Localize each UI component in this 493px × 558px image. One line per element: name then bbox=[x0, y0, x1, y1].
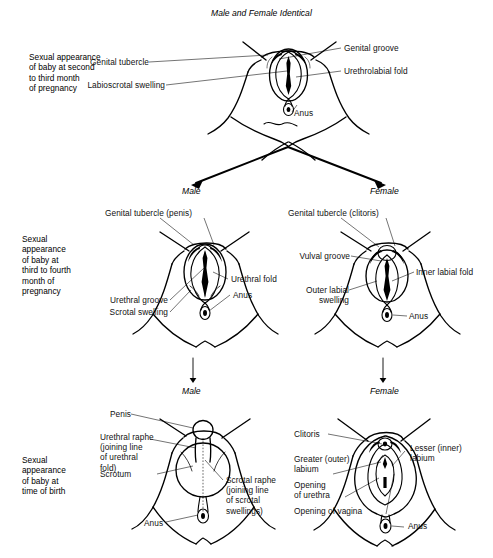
label-genital-tubercle-penis: Genital tubercle (penis) bbox=[105, 208, 192, 218]
stage1-drawing bbox=[208, 42, 369, 160]
label-urethral-groove: Urethral groove bbox=[82, 295, 168, 305]
branch-label-male-mid: Male bbox=[182, 186, 201, 196]
label-penis: Penis bbox=[86, 409, 131, 419]
figure-title: Male and Female Identical bbox=[211, 8, 312, 18]
label-scrotal-raphe: Scrotal raphe (joining line of scrotal s… bbox=[226, 475, 276, 516]
branch-label-female-bottom: Female bbox=[370, 386, 399, 396]
label-lesser-inner-labium: Lesser (inner) labium bbox=[410, 443, 462, 463]
label-anus-stage1: Anus bbox=[294, 108, 313, 118]
label-urethrolabial-fold: Urethrolabial fold bbox=[344, 66, 408, 76]
label-vulval-groove: Vulval groove bbox=[286, 251, 350, 261]
label-genital-tubercle: Genital tubercle bbox=[60, 57, 149, 67]
label-scrotal-swelling: Scrotal swelling bbox=[82, 307, 168, 317]
label-genital-tubercle-clitoris: Genital tubercle (clitoris) bbox=[288, 208, 379, 218]
label-inner-labial-fold: Inner labial fold bbox=[416, 267, 473, 277]
label-anus-stage2-female: Anus bbox=[409, 311, 428, 321]
label-anus-stage3-female: Anus bbox=[408, 521, 427, 531]
label-opening-of-vagina: Opening of vagina bbox=[294, 506, 362, 516]
branch-arrows-2 bbox=[190, 358, 387, 383]
branch-label-female-mid: Female bbox=[370, 186, 399, 196]
label-labioscrotal-swelling: Labioscrotal swelling bbox=[45, 80, 165, 90]
label-urethral-fold: Urethral fold bbox=[231, 274, 277, 284]
stage2-male-leaders bbox=[160, 218, 230, 312]
figure-canvas: Male and Female Identical Sexual appeara… bbox=[0, 0, 493, 558]
label-greater-outer-labium: Greater (outer) labium bbox=[294, 454, 350, 474]
stage2-male-drawing bbox=[133, 232, 278, 347]
label-opening-of-urethra: Opening of urethra bbox=[294, 480, 330, 500]
stage-3-caption: Sexual appearance of baby at time of bir… bbox=[22, 455, 66, 497]
label-outer-labial-swelling: Outer labial swelling bbox=[281, 285, 349, 305]
label-urethral-raphe: Urethral raphe (joining line of urethral… bbox=[100, 432, 154, 473]
branch-label-male-bottom: Male bbox=[182, 386, 201, 396]
label-clitoris: Clitoris bbox=[294, 429, 320, 439]
branch-arrow-1 bbox=[191, 147, 386, 189]
stage3-female-drawing bbox=[314, 419, 455, 546]
label-genital-groove: Genital groove bbox=[344, 43, 399, 53]
stage-2-caption: Sexual appearance of baby at third to fo… bbox=[22, 234, 71, 296]
label-anus-stage2-male: Anus bbox=[233, 290, 252, 300]
label-scrotum: Scrotum bbox=[100, 469, 131, 479]
label-anus-stage3-male: Anus bbox=[144, 518, 163, 528]
